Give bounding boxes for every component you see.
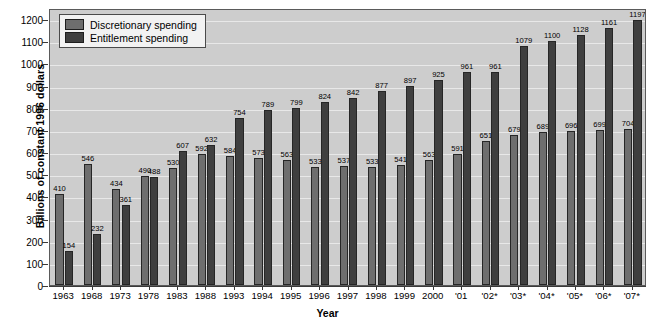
y-axis-tick-mark — [42, 20, 48, 21]
bar-chart: Billions of constant 1996 dollars 410154… — [0, 0, 655, 330]
bar-entitlement-1995 — [292, 108, 300, 285]
y-axis-tick-label: 100 — [0, 258, 43, 269]
x-axis-tick-mark — [461, 286, 462, 290]
y-axis-tick-label: 200 — [0, 236, 43, 247]
legend-swatch-discretionary-icon — [65, 19, 84, 30]
bar-value-label: 789 — [257, 100, 279, 109]
bar-value-label: 232 — [86, 224, 108, 233]
bar-entitlement-01 — [463, 72, 471, 285]
x-axis-tick-label: 1994 — [252, 290, 273, 301]
bar-discretionary-1983 — [169, 168, 177, 285]
y-axis-tick-mark — [42, 64, 48, 65]
x-axis-tick-mark — [603, 286, 604, 290]
bar-entitlement-2000 — [434, 80, 442, 285]
x-axis-tick-label: 1988 — [195, 290, 216, 301]
bar-entitlement-04 — [548, 41, 556, 285]
x-axis-tick-label: 1997 — [337, 290, 358, 301]
bar-value-label: 434 — [105, 179, 127, 188]
bar-entitlement-1978 — [150, 177, 158, 285]
bar-entitlement-03 — [520, 46, 528, 285]
x-axis-tick-mark — [376, 286, 377, 290]
y-axis-tick-label: 1200 — [0, 15, 43, 26]
y-axis-tick-label: 500 — [0, 170, 43, 181]
bar-discretionary-02 — [482, 141, 490, 285]
bar-entitlement-1997 — [349, 98, 357, 285]
bar-value-label: 1128 — [570, 25, 592, 34]
y-axis-tick-mark — [42, 109, 48, 110]
x-axis-tick-label: 1968 — [81, 290, 102, 301]
bar-entitlement-1996 — [321, 102, 329, 285]
y-axis-tick-label: 900 — [0, 81, 43, 92]
x-axis-tick-mark — [547, 286, 548, 290]
bar-entitlement-05 — [577, 35, 585, 285]
bar-entitlement-1988 — [207, 145, 215, 285]
y-axis-tick-mark — [42, 286, 48, 287]
x-axis-tick-label: '04* — [538, 290, 554, 301]
y-axis-tick-label: 0 — [0, 281, 43, 292]
bar-value-label: 754 — [228, 108, 250, 117]
bar-value-label: 925 — [427, 70, 449, 79]
y-axis-tick-mark — [42, 42, 48, 43]
x-axis-tick-mark — [319, 286, 320, 290]
bar-value-label: 842 — [342, 88, 364, 97]
legend-swatch-entitlement-icon — [65, 32, 84, 43]
legend-label-entitlement: Entitlement spending — [90, 32, 188, 44]
bar-entitlement-1994 — [264, 110, 272, 285]
x-axis-tick-label: 1983 — [166, 290, 187, 301]
x-axis-tick-label: 1996 — [308, 290, 329, 301]
bar-discretionary-1994 — [254, 158, 262, 285]
y-axis-tick-mark — [42, 131, 48, 132]
x-axis-tick-mark — [433, 286, 434, 290]
y-axis-tick-label: 400 — [0, 192, 43, 203]
y-axis-tick-label: 800 — [0, 103, 43, 114]
bar-value-label: 877 — [371, 81, 393, 90]
bar-discretionary-04 — [539, 132, 547, 285]
x-axis-tick-mark — [490, 286, 491, 290]
bar-discretionary-06 — [596, 130, 604, 285]
y-axis-tick-mark — [42, 197, 48, 198]
legend-item-entitlement: Entitlement spending — [65, 31, 197, 44]
bar-entitlement-1993 — [235, 118, 243, 285]
x-axis-tick-label: 2000 — [422, 290, 443, 301]
x-axis-tick-label: 1993 — [223, 290, 244, 301]
bar-value-label: 154 — [58, 241, 80, 250]
bar-discretionary-01 — [453, 154, 461, 285]
bar-discretionary-1995 — [283, 160, 291, 285]
x-axis-tick-mark — [63, 286, 64, 290]
x-axis-tick-mark — [205, 286, 206, 290]
bar-discretionary-1993 — [226, 156, 234, 285]
bar-value-label: 488 — [143, 167, 165, 176]
bar-value-label: 361 — [115, 195, 137, 204]
bar-value-label: 961 — [484, 62, 506, 71]
bar-value-label: 961 — [456, 62, 478, 71]
x-axis-tick-label: 1963 — [53, 290, 74, 301]
y-axis-tick-mark — [42, 87, 48, 88]
y-axis-tick-mark — [42, 153, 48, 154]
bar-discretionary-1996 — [311, 167, 319, 285]
bar-value-label: 1197 — [626, 10, 646, 19]
y-axis-tick-mark — [42, 242, 48, 243]
bar-value-label: 897 — [399, 76, 421, 85]
x-axis-title: Year — [0, 307, 655, 319]
x-axis-tick-label: '05* — [567, 290, 583, 301]
y-axis-tick-mark — [42, 264, 48, 265]
x-axis-tick-label: 1999 — [394, 290, 415, 301]
x-axis-tick-label: '06* — [595, 290, 611, 301]
x-axis-tick-mark — [120, 286, 121, 290]
bar-value-label: 1100 — [541, 31, 563, 40]
bar-discretionary-1978 — [141, 176, 149, 285]
bar-entitlement-1973 — [122, 205, 130, 285]
x-axis-tick-label: '03* — [510, 290, 526, 301]
chart-legend: Discretionary spending Entitlement spend… — [59, 14, 206, 48]
bar-value-label: 824 — [314, 92, 336, 101]
bar-value-label: 546 — [77, 154, 99, 163]
x-axis-tick-mark — [348, 286, 349, 290]
bar-value-label: 799 — [285, 98, 307, 107]
x-axis-tick-label: '07* — [624, 290, 640, 301]
x-axis-tick-label: 1998 — [365, 290, 386, 301]
bar-entitlement-07 — [633, 20, 641, 285]
bar-discretionary-05 — [567, 131, 575, 285]
bar-discretionary-1997 — [340, 166, 348, 285]
bar-discretionary-1963 — [55, 194, 63, 285]
y-axis-tick-mark — [42, 220, 48, 221]
